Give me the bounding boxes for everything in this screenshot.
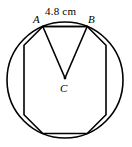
side-length-label: 4.8 cm (45, 6, 76, 17)
vertex-label-b: B (88, 14, 95, 25)
center-point-dot (64, 77, 67, 80)
inscribed-octagon (24, 27, 106, 134)
center-label-c: C (60, 83, 67, 94)
radius-line-b-to-c (65, 27, 87, 79)
geometry-canvas (0, 0, 132, 147)
geometry-figure: A B C 4.8 cm (0, 0, 132, 147)
vertex-label-a: A (33, 14, 40, 25)
radius-line-a-to-c (43, 27, 65, 79)
